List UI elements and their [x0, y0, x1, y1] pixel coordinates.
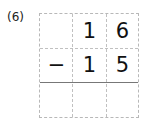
cell-r2-c3: 5 [106, 48, 139, 82]
answer-cell-2[interactable] [73, 82, 106, 117]
cell-r1-c2: 1 [73, 14, 106, 48]
answer-cell-1[interactable] [40, 82, 73, 117]
answer-cell-3[interactable] [106, 82, 139, 117]
problem-number: (6) [7, 10, 24, 24]
cell-r1-c3: 6 [106, 14, 139, 48]
subtraction-grid: 1 6 − 1 5 [39, 13, 139, 118]
cell-r1-c1 [40, 14, 73, 48]
minus-sign: − [40, 48, 73, 82]
cell-r2-c2: 1 [73, 48, 106, 82]
